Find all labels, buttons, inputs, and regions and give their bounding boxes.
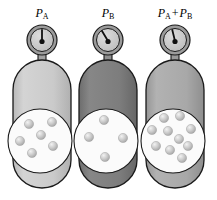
gas-cylinder-unit-b: PB xyxy=(72,0,144,200)
cylinder-ab-graphic xyxy=(139,0,211,200)
gas-cylinder-unit-a: PA xyxy=(6,0,78,200)
gas-particle xyxy=(165,145,174,154)
gauge-hub-a xyxy=(39,39,44,44)
cylinder-b-graphic xyxy=(72,0,144,200)
gas-particle xyxy=(99,115,108,124)
gas-particle xyxy=(175,111,184,120)
gas-particle xyxy=(186,124,195,133)
gas-particle xyxy=(100,152,109,161)
gas-particle xyxy=(24,119,33,128)
gas-particle xyxy=(177,153,186,162)
gas-particle xyxy=(183,141,192,150)
gauge-hub-ab xyxy=(172,39,177,44)
gas-particle xyxy=(151,141,160,150)
gas-particle xyxy=(48,141,57,150)
gas-particle xyxy=(163,126,172,135)
gas-particle xyxy=(159,113,168,122)
gas-cylinder-diagram: PA xyxy=(0,0,217,200)
gas-particle xyxy=(174,134,183,143)
gas-particle xyxy=(47,117,56,126)
gas-cylinder-unit-a-plus-b: PA+PB xyxy=(139,0,211,200)
gas-particle xyxy=(36,130,45,139)
magnifier-circle-ab xyxy=(141,109,205,173)
gas-particle xyxy=(15,136,24,145)
gas-particle xyxy=(84,132,93,141)
gauge-hub-b xyxy=(105,39,110,44)
gas-particle xyxy=(147,125,156,134)
gas-particle xyxy=(118,133,127,142)
gas-particle xyxy=(27,148,36,157)
cylinder-a-graphic xyxy=(6,0,78,200)
